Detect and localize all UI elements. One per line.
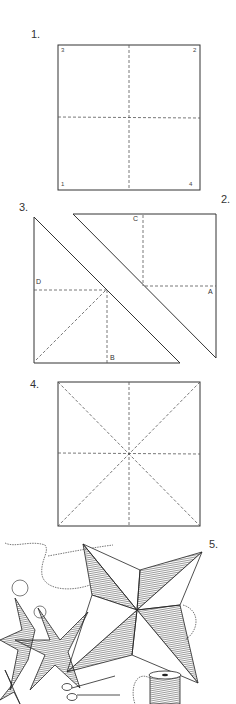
small-star-icon	[0, 580, 35, 704]
thread-spool-icon	[133, 671, 181, 704]
finished-stars-illustration	[0, 0, 236, 704]
